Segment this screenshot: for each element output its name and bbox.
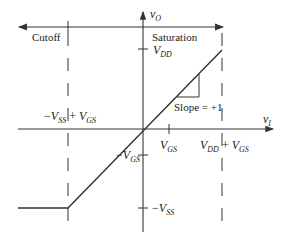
right-bound-label: VDD + VGS: [200, 138, 249, 154]
slope-label: Slope = +1: [174, 101, 222, 113]
y-axis-label: vO: [150, 7, 161, 23]
saturation-label: Saturation: [152, 31, 198, 43]
vgs-label: VGS: [160, 138, 177, 154]
x-axis-label: vI: [263, 112, 271, 128]
cutoff-label: Cutoff: [32, 31, 61, 43]
left-bound-label: −VSS + VGS: [44, 109, 96, 125]
transfer-characteristic-diagram: vO vI Cutoff Saturation VDD Slope = +1 −…: [0, 0, 287, 237]
neg-vss-label: −VSS: [152, 201, 174, 217]
vdd-label: VDD: [153, 43, 172, 59]
neg-vgs-label: −VGS: [116, 148, 140, 164]
